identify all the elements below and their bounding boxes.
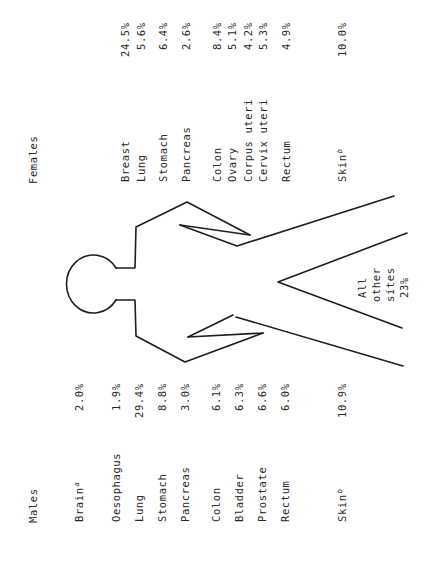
males-title: Males (28, 488, 39, 523)
upper-shoulder (116, 202, 250, 268)
male-site-label: Rectum (280, 480, 291, 522)
male-site-label: Lung (134, 494, 145, 522)
female-site-value: 5.3% (258, 22, 269, 50)
female-site-value: 4.9% (281, 22, 292, 50)
females-title: Females (28, 136, 39, 184)
male-site-value: 6.6% (257, 383, 268, 411)
lower-leg-outer (236, 317, 403, 366)
female-site-label: Colon (212, 147, 223, 182)
female-site-value: 24.5% (120, 22, 131, 57)
male-site-value: 6.1% (211, 383, 222, 411)
male-site-value: 29.4% (134, 383, 145, 418)
lower-shoulder (116, 300, 263, 362)
male-site-value: 1.9% (111, 383, 122, 411)
male-site-value: 10.9% (337, 383, 348, 418)
female-site-label: Ovary (227, 147, 238, 182)
male-site-label: Pancreas (180, 467, 191, 522)
male-site-value: 3.0% (180, 383, 191, 411)
female-site-label: Rectum (281, 140, 292, 182)
female-site-value: 5.6% (136, 22, 147, 50)
male-site-label: Braina (74, 482, 85, 522)
female-site-value: 8.4% (212, 22, 223, 50)
female-site-label: Breast (120, 140, 131, 182)
female-site-value: 6.4% (158, 22, 169, 50)
male-site-value: 6.3% (234, 383, 245, 411)
male-site-label: Skinb (337, 488, 348, 522)
female-site-label: Skinb (337, 148, 348, 182)
male-site-label: Prostate (257, 467, 268, 522)
other-sites-label: sites (385, 267, 396, 302)
female-site-label: Stomach (158, 134, 169, 182)
female-site-label: Corpus uteri (243, 99, 254, 182)
male-site-value: 6.0% (280, 383, 291, 411)
male-site-label: Bladder (234, 474, 245, 522)
female-site-value: 10.0% (337, 22, 348, 57)
male-site-label: Stomach (157, 474, 168, 522)
female-site-label: Pancreas (181, 127, 192, 182)
male-site-label: Colon (211, 487, 222, 522)
male-site-value: 8.8% (157, 383, 168, 411)
upper-armpit (180, 196, 394, 246)
female-site-value: 4.2% (243, 22, 254, 50)
other-sites-label: other (371, 267, 382, 302)
lower-armpit (188, 315, 233, 337)
male-site-label: Oesophagus (111, 453, 122, 522)
female-site-label: Lung (136, 154, 147, 182)
female-site-label: Cervix uteri (258, 99, 269, 182)
other-sites-value: 23% (399, 277, 410, 298)
other-sites-label: All (357, 277, 368, 298)
female-site-value: 2.6% (181, 22, 192, 50)
male-site-value: 2.0% (74, 383, 85, 411)
female-site-value: 5.1% (227, 22, 238, 50)
head-outline (66, 255, 116, 313)
